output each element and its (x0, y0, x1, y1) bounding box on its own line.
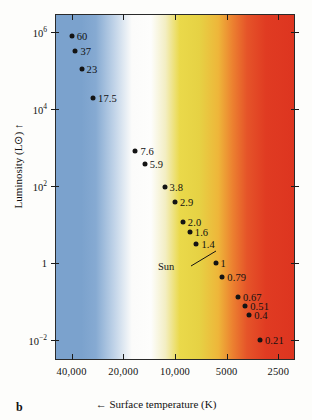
x-tick-bottom (278, 354, 279, 360)
y-tick-label: 104 (3, 102, 47, 116)
data-point (187, 229, 192, 234)
x-tick-bottom (123, 354, 124, 360)
y-axis-title: Luminosity (L⊙) ↑ (12, 87, 25, 247)
data-point-label: 2.9 (180, 196, 193, 207)
x-tick-bottom (175, 354, 176, 360)
sun-annotation-label: Sun (158, 261, 174, 272)
x-axis-title-arrow: ← (96, 398, 107, 410)
y-tick-label: 102 (3, 179, 47, 193)
x-tick-label: 5000 (216, 366, 238, 377)
y-tick-left (51, 186, 59, 187)
data-point (235, 295, 240, 300)
data-point (69, 34, 74, 39)
data-point (162, 185, 167, 190)
y-tick-left (51, 109, 59, 110)
y-tick-left (51, 32, 59, 33)
x-tick-label: 20,000 (108, 366, 138, 377)
data-point (142, 161, 147, 166)
data-point (180, 219, 185, 224)
data-point-label: 7.6 (140, 145, 153, 156)
data-point (257, 338, 262, 343)
data-point-label: 37 (80, 46, 91, 57)
x-tick-top (123, 14, 124, 20)
data-point (79, 67, 84, 72)
data-point-label: 0.4 (254, 310, 267, 321)
x-axis-title-text: Surface temperature (K) (109, 398, 216, 410)
y-tick-right (291, 263, 299, 264)
x-tick-top (278, 14, 279, 20)
data-point (247, 313, 252, 318)
y-tick-label: 10−2 (3, 333, 47, 347)
data-point-label: 0.79 (227, 272, 246, 283)
data-point-label: 5.9 (150, 158, 163, 169)
x-tick-label: 10,000 (160, 366, 190, 377)
data-point-label: 23 (87, 64, 98, 75)
x-tick-label: 40,000 (57, 366, 87, 377)
x-tick-top (175, 14, 176, 20)
data-point-label: 1.4 (201, 238, 214, 249)
y-tick-label: 1 (3, 258, 47, 269)
y-tick-left (51, 340, 59, 341)
data-point (173, 199, 178, 204)
y-tick-label: 106 (3, 26, 47, 40)
x-tick-label: 2500 (267, 366, 289, 377)
data-point (73, 49, 78, 54)
data-point-label: 1 (221, 258, 226, 269)
data-point (243, 304, 248, 309)
data-point-label: 0.21 (265, 335, 284, 346)
data-point (220, 275, 225, 280)
data-point (91, 95, 96, 100)
y-tick-right (291, 32, 299, 33)
data-point-label: 60 (77, 31, 88, 42)
y-axis-title-text: Luminosity (L⊙) (12, 132, 24, 209)
x-tick-top (72, 14, 73, 20)
x-tick-bottom (72, 354, 73, 360)
data-point-label: 3.8 (170, 182, 183, 193)
x-axis-title: ← Surface temperature (K) (0, 398, 312, 410)
data-point-label: 17.5 (98, 92, 117, 103)
y-tick-left (51, 263, 59, 264)
data-point (133, 148, 138, 153)
x-tick-bottom (227, 354, 228, 360)
y-tick-right (291, 109, 299, 110)
data-point-label: 1.6 (195, 226, 208, 237)
data-point (213, 261, 218, 266)
data-point (194, 241, 199, 246)
y-tick-right (291, 340, 299, 341)
y-tick-right (291, 186, 299, 187)
hr-diagram-figure: 40,00020,00010,00050002500106104102110−2… (0, 0, 312, 420)
panel-letter: b (16, 400, 23, 415)
y-axis-title-arrow: ↑ (12, 125, 24, 130)
x-tick-top (227, 14, 228, 20)
